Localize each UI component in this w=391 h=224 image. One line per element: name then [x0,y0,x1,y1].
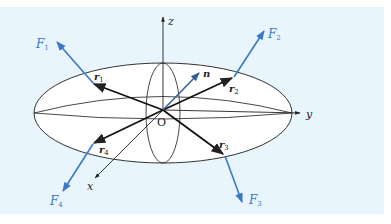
F2-label: F2 [267,27,281,42]
F4-label: F4 [49,194,63,209]
origin-label: O [157,116,166,129]
ellipsoid-force-diagram: z y x O r1 r2 r3 r4 n F1 F2 F3 F4 [0,0,391,224]
F2-vector [234,31,264,77]
F3-label: F3 [248,193,262,208]
x-axis-label: x [87,180,94,193]
y-axis-label: y [305,108,313,121]
normal-label: n [203,68,210,79]
F3-vector [225,156,242,202]
F1-label: F1 [35,37,49,52]
z-axis-label: z [167,15,174,28]
